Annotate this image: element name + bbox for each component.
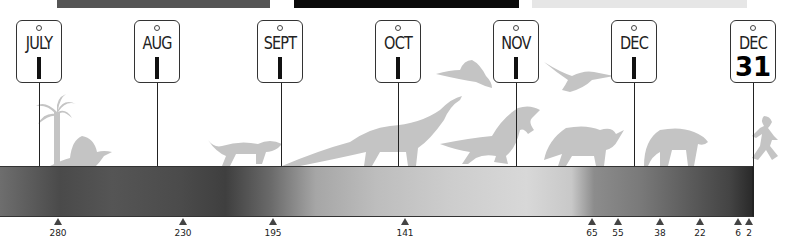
calendar-tag-aug: AUG bbox=[134, 20, 180, 83]
marker-triangle-icon bbox=[614, 218, 622, 225]
tag-stem-nov bbox=[516, 83, 517, 167]
marker-label: 55 bbox=[603, 228, 633, 238]
tag-month: SEPT bbox=[261, 33, 298, 53]
marker-label: 38 bbox=[645, 228, 675, 238]
day-one-glyph bbox=[37, 57, 41, 79]
marker-triangle-icon bbox=[588, 218, 596, 225]
marker-triangle-icon bbox=[54, 218, 62, 225]
marker-label: 141 bbox=[390, 228, 420, 238]
running-human-icon bbox=[752, 116, 778, 160]
marker-triangle-icon bbox=[401, 218, 409, 225]
marker-label: 195 bbox=[258, 228, 288, 238]
tag-stem-dec31 bbox=[753, 83, 754, 167]
marker-triangle-icon bbox=[179, 218, 187, 225]
pterosaur-icon bbox=[544, 62, 614, 92]
calendar-tag-nov: NOV bbox=[493, 20, 539, 83]
hole-icon bbox=[513, 25, 519, 31]
marker-label: 22 bbox=[685, 228, 715, 238]
early-mammal-icon bbox=[208, 140, 282, 166]
hole-icon bbox=[36, 25, 42, 31]
tag-month: AUG bbox=[138, 33, 175, 53]
hole-icon bbox=[395, 25, 401, 31]
marker-label: 230 bbox=[168, 228, 198, 238]
tag-stem-july bbox=[39, 83, 40, 167]
hole-icon bbox=[277, 25, 283, 31]
tag-month: JULY bbox=[20, 33, 57, 53]
tag-month: OCT bbox=[379, 33, 416, 53]
calendar-tag-sept: SEPT bbox=[257, 20, 303, 83]
day-one-glyph bbox=[155, 57, 159, 79]
day-one-glyph bbox=[514, 57, 518, 79]
day-one-glyph bbox=[278, 57, 282, 79]
marker-label: 2 bbox=[734, 228, 764, 238]
marker-triangle-icon bbox=[734, 218, 742, 225]
sauropod-icon bbox=[282, 96, 462, 166]
tag-stem-aug bbox=[157, 83, 158, 167]
tag-day: 31 bbox=[731, 54, 775, 80]
day-one-glyph bbox=[632, 57, 636, 79]
marker-triangle-icon bbox=[745, 218, 753, 225]
large-mammal-icon bbox=[644, 128, 708, 166]
triceratops-icon bbox=[544, 126, 624, 166]
calendar-tag-july: JULY bbox=[16, 20, 62, 83]
marker-triangle-icon bbox=[656, 218, 664, 225]
tag-stem-sept bbox=[281, 83, 282, 167]
tag-month: NOV bbox=[497, 33, 534, 53]
hole-icon bbox=[750, 25, 756, 31]
tag-stem-dec bbox=[634, 83, 635, 167]
marker-label: 280 bbox=[43, 228, 73, 238]
tag-month: DEC bbox=[615, 33, 652, 53]
tag-stem-oct bbox=[398, 83, 399, 167]
tag-month: DEC bbox=[734, 33, 771, 53]
calendar-tag-dec: DEC bbox=[611, 20, 657, 83]
palm-tree-icon bbox=[36, 94, 76, 167]
archaeopteryx-icon bbox=[436, 60, 492, 88]
marker-triangle-icon bbox=[269, 218, 277, 225]
calendar-tag-oct: OCT bbox=[375, 20, 421, 83]
calendar-tag-dec31: DEC 31 bbox=[730, 20, 776, 83]
day-one-glyph bbox=[396, 57, 400, 79]
marker-triangle-icon bbox=[696, 218, 704, 225]
geologic-timeline-bar bbox=[0, 166, 754, 217]
hole-icon bbox=[154, 25, 160, 31]
tyrannosaurus-icon bbox=[440, 106, 540, 164]
hole-icon bbox=[631, 25, 637, 31]
